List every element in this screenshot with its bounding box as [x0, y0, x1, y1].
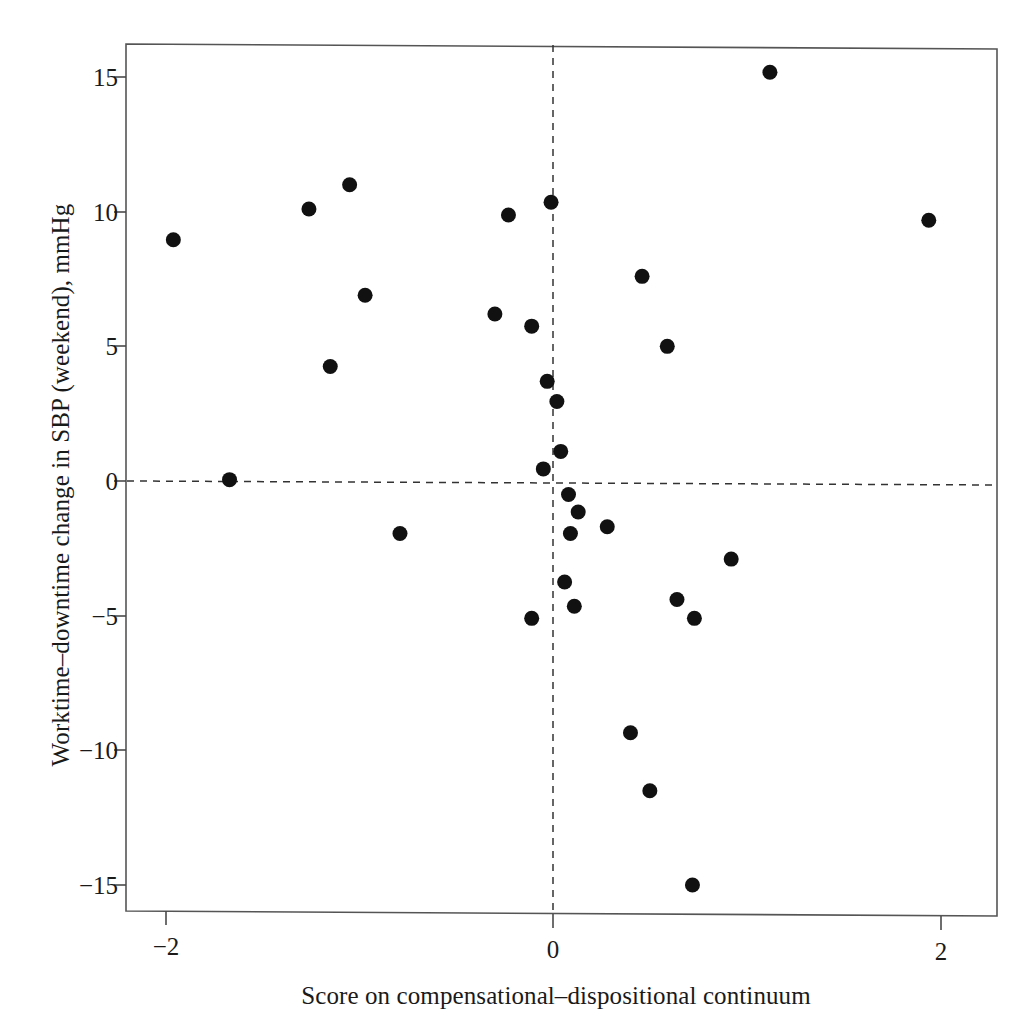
y-axis-title: Worktime–downtime change in SBP (weekend…	[44, 125, 78, 845]
x-axis-tick-labels: −2 0 2	[0, 0, 1021, 1032]
x-axis-title: Score on compensational–dispositional co…	[126, 982, 986, 1010]
x-tick-label: −2	[136, 934, 196, 959]
x-tick-label: 0	[523, 937, 583, 962]
x-tick-label: 2	[911, 939, 971, 964]
scatter-plot-figure: 15 10 5 0 −5 −10 −15 −2 0 2 Worktime–dow…	[0, 0, 1021, 1032]
